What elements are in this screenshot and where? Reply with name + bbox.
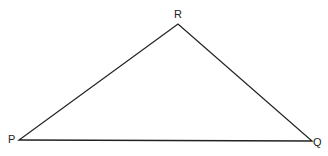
vertex-label-r: R (174, 9, 182, 20)
triangle-diagram: P Q R (0, 0, 328, 156)
triangle-shape (0, 0, 328, 156)
vertex-label-p: P (8, 134, 15, 145)
vertex-label-q: Q (313, 137, 322, 148)
